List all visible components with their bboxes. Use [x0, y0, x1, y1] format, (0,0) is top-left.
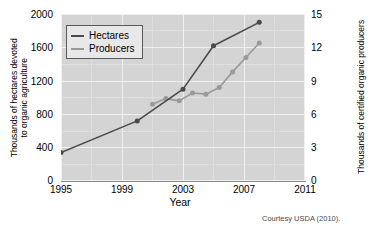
- data-point: [243, 55, 248, 60]
- x-tick-1995: 1995: [41, 184, 81, 195]
- data-point: [150, 102, 155, 107]
- x-axis-spine: [61, 181, 306, 182]
- x-tick-2003: 2003: [163, 184, 203, 195]
- y-tick-right-15: 15: [311, 9, 331, 20]
- data-point: [203, 92, 208, 97]
- y-tick-left-400: 400: [19, 142, 53, 153]
- y-axis-left-title-line2: to organic agriculture: [20, 12, 30, 184]
- y-tick-right-9: 9: [311, 76, 331, 87]
- data-point: [177, 98, 182, 103]
- legend-item-producers: Producers: [71, 42, 135, 55]
- legend-label-hectares: Hectares: [89, 30, 129, 41]
- x-tick-2011: 2011: [285, 184, 325, 195]
- y-tick-left-2000: 2000: [19, 9, 53, 20]
- y-tick-left-800: 800: [19, 109, 53, 120]
- credit-text: Courtesy USDA (2010).: [262, 214, 340, 223]
- data-point: [135, 118, 140, 123]
- y-tick-right-6: 6: [311, 109, 331, 120]
- y-tick-left-1600: 1600: [19, 42, 53, 53]
- legend-label-producers: Producers: [89, 43, 135, 54]
- y-axis-left-title-line1: Thousands of hectares devoted: [9, 38, 19, 157]
- data-point: [211, 43, 216, 48]
- x-tick-2007: 2007: [224, 184, 264, 195]
- data-point: [230, 69, 235, 74]
- y-tick-right-12: 12: [311, 42, 331, 53]
- y-tick-right-3: 3: [311, 142, 331, 153]
- data-point: [217, 85, 222, 90]
- legend-item-hectares: Hectares: [71, 29, 135, 42]
- y-axis-left-title: Thousands of hectares devoted to organic…: [10, 12, 30, 184]
- data-point: [257, 40, 262, 45]
- x-tick-1999: 1999: [102, 184, 142, 195]
- legend-swatch-hectares: [71, 35, 84, 37]
- data-point: [190, 91, 195, 96]
- x-axis-title: Year: [60, 196, 300, 208]
- series-producers: [150, 40, 262, 106]
- data-point: [257, 20, 262, 25]
- y-axis-right-title: Thousands of certified organic producers: [357, 7, 367, 187]
- legend: Hectares Producers: [66, 25, 143, 59]
- legend-swatch-producers: [71, 48, 84, 50]
- data-point: [181, 87, 186, 92]
- chart-figure: Thousands of hectares devoted to organic…: [0, 0, 372, 231]
- y-tick-left-1200: 1200: [19, 76, 53, 87]
